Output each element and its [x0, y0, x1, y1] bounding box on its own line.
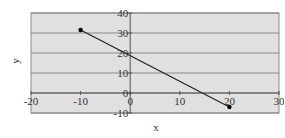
y-tick-label: 20 [117, 47, 129, 59]
y-tick-label: -10 [114, 107, 129, 119]
y-tick-label: 30 [117, 27, 129, 39]
x-tick-label: -20 [24, 95, 39, 107]
x-tick-label: 30 [274, 95, 285, 107]
x-tick-label: 10 [174, 95, 186, 107]
y-tick-label: 10 [117, 67, 129, 79]
y-tick-label: 40 [117, 7, 129, 19]
data-point-marker [78, 28, 82, 32]
y-tick-label: 0 [123, 87, 129, 99]
x-tick-label: 0 [127, 95, 133, 107]
y-axis-title: y [9, 58, 21, 64]
x-tick-label: -10 [73, 95, 88, 107]
data-point-marker [227, 105, 231, 109]
plot-area [31, 13, 279, 113]
x-axis-title: x [153, 121, 159, 133]
scatter-chart: -20-100102030 -10010203040 x y [0, 0, 284, 138]
